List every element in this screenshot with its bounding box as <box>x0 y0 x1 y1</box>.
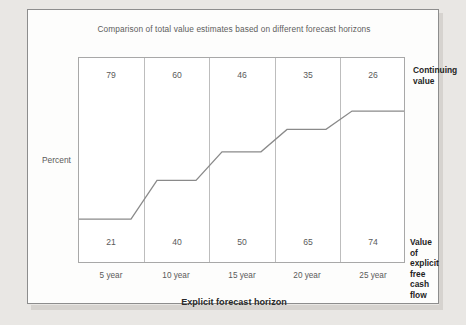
x-tick-4: 25 year <box>347 271 399 280</box>
chart-title: Comparison of total value estimates base… <box>28 24 440 34</box>
card-shadow-right <box>439 13 443 309</box>
x-axis-title: Explicit forecast horizon <box>28 297 440 307</box>
legend-continuing-value-line2: value <box>413 76 457 87</box>
legend-explicit-fcf-line2: free cash flow <box>410 269 439 301</box>
chart-card: Comparison of total value estimates base… <box>27 9 439 304</box>
y-axis-label: Percent <box>42 155 71 165</box>
x-tick-0: 5 year <box>85 271 137 280</box>
legend-explicit-fcf-line1: Value of explicit <box>410 237 439 269</box>
x-tick-2: 15 year <box>216 271 268 280</box>
legend-continuing-value-line1: Continuing <box>413 65 457 76</box>
legend-explicit-fcf: Value of explicit free cash flow <box>410 237 439 300</box>
x-tick-3: 20 year <box>281 271 333 280</box>
x-tick-1: 10 year <box>150 271 202 280</box>
plot-area: 79 60 46 35 26 21 40 50 65 74 <box>78 57 405 263</box>
split-boundary-line <box>79 58 404 262</box>
legend-continuing-value: Continuing value <box>413 65 457 86</box>
